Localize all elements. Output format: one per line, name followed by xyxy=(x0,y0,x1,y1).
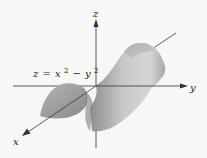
z-axis-label: z xyxy=(92,8,99,19)
saddle-diagram: z y x z = x 2 − y 2 xyxy=(0,0,207,158)
equation-exp2: 2 xyxy=(94,67,98,75)
z-axis-arrowhead xyxy=(94,19,99,27)
equation-equals: = xyxy=(42,68,50,79)
equation-term2: y xyxy=(84,68,91,79)
y-axis-arrowhead xyxy=(180,84,188,89)
saddle-surface-left-flap xyxy=(40,83,87,118)
equation-minus: − xyxy=(73,68,81,79)
equation-exp1: 2 xyxy=(64,67,68,75)
x-axis-arrowhead xyxy=(22,129,31,137)
equation-label: z = x 2 − y 2 xyxy=(32,64,98,79)
y-axis-label: y xyxy=(189,82,196,93)
equation-lhs: z xyxy=(32,68,39,79)
equation-term1: x xyxy=(55,68,61,79)
saddle-surface-back xyxy=(90,43,165,131)
x-axis-label: x xyxy=(13,136,19,147)
